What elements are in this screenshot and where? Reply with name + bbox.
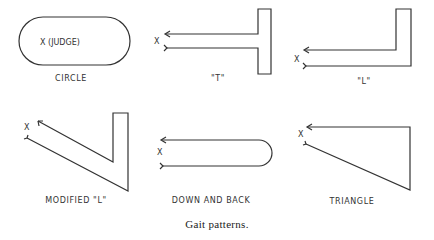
t-label: "T": [211, 74, 225, 83]
start-tail-icon: [303, 63, 306, 69]
modified-l-path: [27, 113, 128, 191]
l-path: [305, 9, 411, 66]
judge-mark: X: [154, 37, 160, 46]
t-path: [166, 9, 271, 74]
pattern-t: X "T": [154, 9, 271, 83]
start-tail-icon: [303, 141, 306, 145]
judge-mark: X: [157, 148, 163, 157]
judge-mark: X: [294, 55, 300, 64]
judge-mark: X: [24, 123, 30, 132]
circle-label: CIRCLE: [55, 74, 87, 83]
start-tail-icon: [160, 163, 163, 169]
start-tail-icon: [164, 45, 167, 51]
down-and-back-label: DOWN AND BACK: [172, 196, 251, 205]
modified-l-label: MODIFIED "L": [45, 196, 106, 205]
down-and-back-path: [162, 140, 272, 166]
judge-mark: X: [298, 130, 304, 139]
pattern-triangle: X TRIANGLE: [298, 124, 410, 206]
l-label: "L": [357, 77, 371, 86]
pattern-modified-l: X MODIFIED "L": [24, 113, 128, 205]
pattern-down-and-back: X DOWN AND BACK: [157, 137, 272, 205]
triangle-label: TRIANGLE: [329, 197, 375, 206]
triangle-path: [306, 127, 410, 190]
start-tail-icon: [24, 135, 28, 139]
figure-caption: Gait patterns.: [185, 218, 248, 230]
pattern-l: X "L": [294, 9, 411, 86]
judge-label: X (JUDGE): [40, 38, 80, 47]
gait-patterns-diagram: X (JUDGE) CIRCLE X "T" X "L" X MODIFIED …: [0, 0, 434, 240]
pattern-circle: X (JUDGE) CIRCLE: [19, 17, 130, 83]
